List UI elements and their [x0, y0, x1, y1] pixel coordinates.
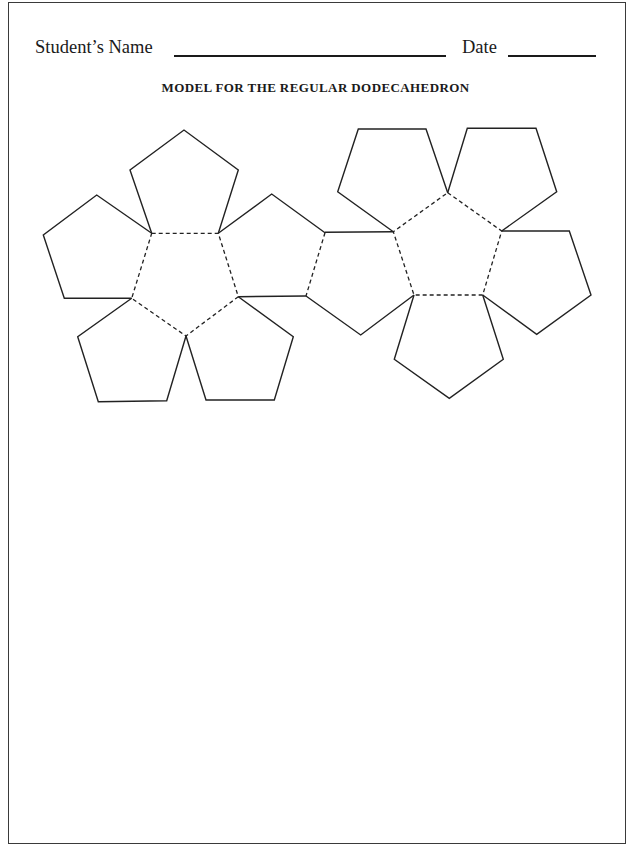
- right-top-right-face: [448, 128, 557, 231]
- left-lower-right-face: [186, 297, 293, 400]
- right-right-face: [483, 231, 591, 334]
- right-top-left-face: [338, 129, 448, 232]
- right-bottom-face: [394, 295, 503, 398]
- left-lower-left-face: [78, 298, 186, 401]
- left-upper-right-face: [218, 194, 325, 233]
- left-center-face: [132, 233, 239, 336]
- connector-fold-line: [306, 233, 325, 296]
- left-upper-right-face-bottom: [238, 296, 306, 297]
- left-flower: [43, 130, 325, 402]
- right-flower: [338, 128, 591, 398]
- left-top-face: [130, 130, 238, 233]
- left-upper-left-face: [43, 195, 151, 298]
- dodecahedron-net-diagram: [0, 0, 629, 854]
- right-center-face: [393, 193, 501, 295]
